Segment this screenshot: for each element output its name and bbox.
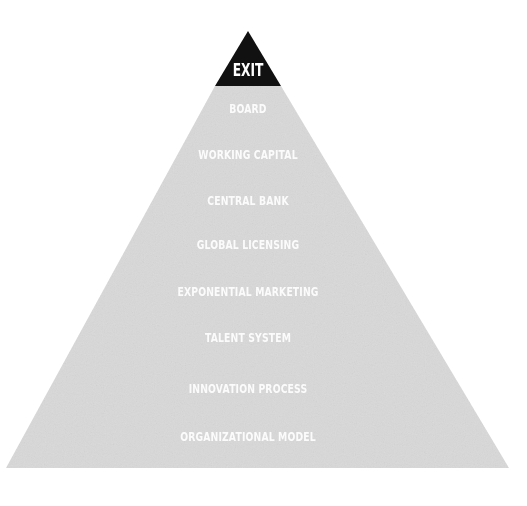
tier-label-central-bank: CENTRAL BANK	[64, 193, 431, 209]
tier-label-organizational-model: ORGANIZATIONAL MODEL	[64, 429, 431, 445]
tier-label-working-capital: WORKING CAPITAL	[64, 147, 431, 163]
tier-label-global-licensing: GLOBAL LICENSING	[64, 237, 431, 253]
tier-label-exponential-marketing: EXPONENTIAL MARKETING	[64, 284, 431, 300]
pyramid-diagram: EXIT BOARD WORKING CAPITAL CENTRAL BANK …	[0, 0, 527, 506]
tier-label-talent-system: TALENT SYSTEM	[64, 330, 431, 346]
pyramid-body	[6, 86, 509, 468]
tier-label-innovation-process: INNOVATION PROCESS	[64, 381, 431, 397]
tier-label-board: BOARD	[64, 101, 431, 117]
apex-label-exit: EXIT	[69, 60, 426, 80]
